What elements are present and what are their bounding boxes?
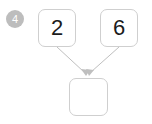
arrowhead-left (81, 69, 90, 76)
operand-left-node[interactable]: 2 (38, 9, 76, 47)
edge-left-to-result (57, 47, 84, 72)
operand-right-node[interactable]: 6 (100, 9, 138, 47)
arrowhead-right (86, 69, 94, 76)
diagram-canvas: 4 2 6 (0, 0, 152, 124)
result-node[interactable] (69, 78, 108, 116)
operand-left-value: 2 (51, 17, 63, 39)
step-badge: 4 (6, 10, 24, 28)
edge-right-to-result (91, 47, 119, 72)
operand-right-value: 6 (113, 17, 125, 39)
